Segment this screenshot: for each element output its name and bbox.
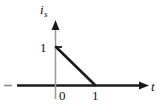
plot-canvas (0, 0, 164, 110)
x-axis-arrowhead-icon (139, 81, 149, 89)
y-tick-label-1: 1 (40, 41, 47, 54)
waveform-ramp-segment (56, 47, 95, 85)
y-axis-label: is (40, 3, 48, 19)
waveform-figure: is t 1 0 1 (0, 0, 164, 110)
y-axis-arrowhead-icon (52, 20, 60, 30)
origin-label-0: 0 (59, 89, 66, 102)
x-axis-label: t (151, 80, 155, 93)
x-tick-label-1: 1 (92, 89, 99, 102)
y-axis-label-subscript: s (44, 9, 48, 19)
